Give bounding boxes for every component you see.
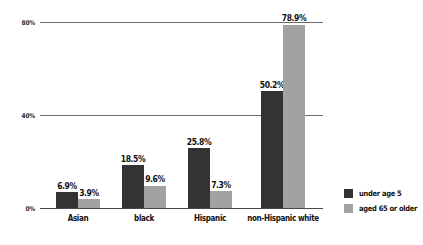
bar-value-label: 7.3% bbox=[211, 180, 231, 190]
bar-group-hispanic: 25.8% 7.3% Hispanic bbox=[188, 22, 232, 208]
y-tick-label-0: 0% bbox=[25, 205, 35, 213]
bar-group-asian: 6.9% 3.9% Asian bbox=[56, 22, 100, 208]
bar-value-label: 18.5% bbox=[121, 154, 146, 164]
x-category-label-asian: Asian bbox=[68, 214, 89, 223]
bar-value-label: 6.9% bbox=[57, 181, 77, 191]
bar-value-label: 78.9% bbox=[282, 13, 307, 23]
legend-label: aged 65 or older bbox=[359, 204, 417, 213]
bar-group-black: 18.5% 9.6% black bbox=[122, 22, 166, 208]
bar-value-label: 3.9% bbox=[79, 188, 99, 198]
y-tick-label-80: 80% bbox=[22, 19, 35, 27]
x-category-label-non-hispanic-white: non-Hispanic white bbox=[247, 214, 319, 223]
chart-legend: under age 5 aged 65 or older bbox=[344, 188, 417, 218]
bar-group-non-hispanic-white: 50.2% 78.9% non-Hispanic white bbox=[261, 22, 305, 208]
x-category-label-black: black bbox=[134, 214, 154, 223]
legend-item-aged-65-or-older[interactable]: aged 65 or older bbox=[344, 203, 417, 214]
legend-item-under-age-5[interactable]: under age 5 bbox=[344, 188, 417, 199]
plot-area: 80% 40% 0% 6.9% 3.9% Asian 18.5% bbox=[40, 22, 323, 208]
bar-value-label: 25.8% bbox=[187, 137, 212, 147]
x-category-label-hispanic: Hispanic bbox=[194, 214, 226, 223]
legend-swatch-icon bbox=[344, 189, 353, 198]
legend-label: under age 5 bbox=[359, 189, 401, 198]
bar-value-label: 50.2% bbox=[260, 80, 285, 90]
gridline-0: 0% bbox=[40, 208, 323, 209]
y-tick-label-40: 40% bbox=[22, 112, 35, 120]
bar-chart: 80% 40% 0% 6.9% 3.9% Asian 18.5% bbox=[0, 0, 423, 245]
bar-value-label: 9.6% bbox=[145, 174, 165, 184]
legend-swatch-icon bbox=[344, 204, 353, 213]
